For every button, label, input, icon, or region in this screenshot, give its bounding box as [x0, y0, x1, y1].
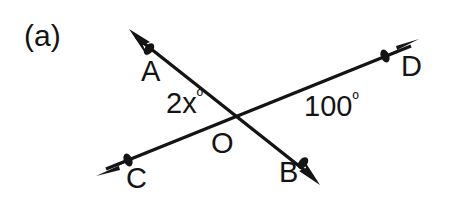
angle-label-aoc: 2xº	[166, 88, 203, 118]
point-label-c: C	[126, 164, 147, 193]
subfigure-label: (a)	[24, 21, 61, 51]
point-label-o: O	[211, 129, 234, 158]
angle-value-dob: 100	[304, 90, 352, 122]
diagram-canvas	[0, 0, 450, 214]
point-label-d: D	[401, 52, 422, 81]
degree-symbol-icon: º	[197, 87, 203, 106]
degree-symbol-icon: º	[352, 90, 358, 109]
point-label-a: A	[141, 57, 160, 86]
geometry-figure: (a) A D O C B 2xº 100º	[0, 0, 450, 214]
point-label-b: B	[279, 158, 298, 187]
angle-value-aoc: 2x	[166, 87, 197, 119]
angle-label-dob: 100º	[304, 91, 359, 121]
